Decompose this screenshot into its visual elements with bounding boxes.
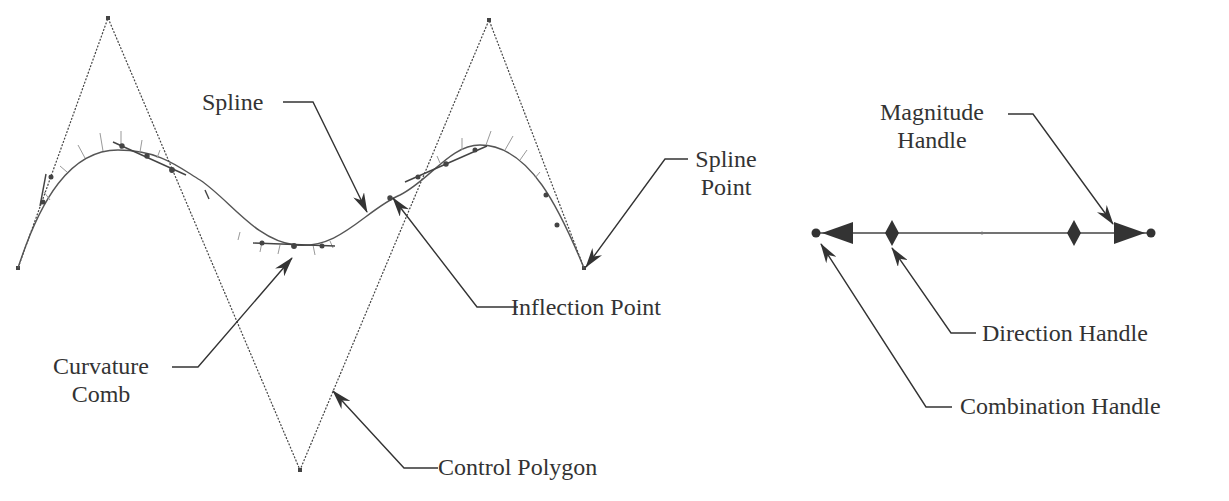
tangent-handle[interactable]	[812, 220, 1156, 246]
label-combination-handle: Combination Handle	[960, 392, 1161, 420]
spline-curve	[18, 145, 584, 268]
magnitude-handle-right-dot[interactable]	[1147, 229, 1156, 238]
handle-midpoint	[981, 232, 984, 235]
control-polygon-leader	[333, 391, 438, 468]
label-curvature-comb-line2: Comb	[36, 380, 166, 408]
label-magnitude-handle-line1: Magnitude	[862, 98, 1002, 126]
spline-tangent-markers	[40, 142, 559, 248]
direction-handle-left[interactable]	[885, 220, 899, 246]
label-spline-point-line2: Point	[690, 173, 762, 201]
direction-handle-leader	[892, 248, 976, 333]
magnitude-handle-leader	[1008, 114, 1113, 224]
label-curvature-comb-line1: Curvature	[36, 352, 166, 380]
label-inflection-point: Inflection Point	[511, 293, 661, 321]
spline-diagram	[0, 0, 1229, 501]
label-direction-handle: Direction Handle	[982, 319, 1148, 347]
label-magnitude-handle-line2: Handle	[862, 126, 1002, 154]
combination-handle-left-dot[interactable]	[812, 229, 821, 238]
spline-point-leader	[586, 159, 688, 267]
inflection-point-leader	[393, 198, 518, 307]
label-spline: Spline	[202, 88, 263, 116]
label-control-polygon: Control Polygon	[438, 453, 597, 481]
magnitude-handle-right-arrow[interactable]	[1114, 222, 1145, 244]
direction-handle-right[interactable]	[1067, 220, 1081, 246]
label-spline-point: Spline Point	[690, 145, 762, 201]
label-magnitude-handle: Magnitude Handle	[862, 98, 1002, 154]
label-spline-point-line1: Spline	[690, 145, 762, 173]
spline-leader	[283, 102, 367, 212]
label-curvature-comb: Curvature Comb	[36, 352, 166, 408]
combination-handle-left-arrow[interactable]	[822, 222, 853, 244]
combination-handle-leader	[821, 244, 952, 407]
curvature-comb-leader	[172, 258, 292, 367]
